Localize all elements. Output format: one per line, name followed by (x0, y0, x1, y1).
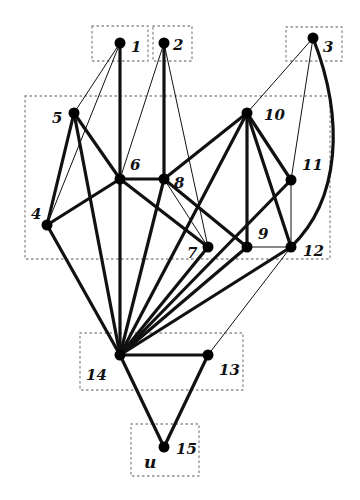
node-label-1: 1 (131, 38, 141, 56)
edge-1-5 (74, 43, 120, 113)
node-label-13: 13 (219, 361, 240, 379)
node-4 (42, 220, 53, 231)
node-label-3: 3 (323, 38, 333, 56)
node-label-9: 9 (258, 225, 269, 243)
node-label-8: 8 (174, 174, 185, 192)
edge-9-14 (120, 247, 247, 355)
edge-1-4 (47, 43, 120, 225)
node-7 (203, 242, 214, 253)
node-3 (308, 33, 319, 44)
edge-11-14 (120, 180, 291, 355)
edge-13-15 (164, 355, 208, 447)
node-label-4: 4 (31, 205, 41, 223)
edge-12-13 (208, 247, 291, 355)
node-1 (115, 38, 126, 49)
node-2 (159, 38, 170, 49)
node-15 (159, 442, 170, 453)
edge-8-7 (164, 179, 208, 247)
node-6 (115, 174, 126, 185)
node-label-15: 15 (176, 440, 197, 458)
node-9 (242, 242, 253, 253)
node-label-2: 2 (172, 36, 183, 54)
node-12 (286, 242, 297, 253)
edge-8-10 (164, 113, 247, 179)
node-label-6: 6 (130, 156, 141, 174)
node-10 (242, 108, 253, 119)
node-label-12: 12 (303, 242, 324, 260)
node-5 (69, 108, 80, 119)
edge-14-15 (120, 355, 164, 447)
graph-diagram: 123456789101112131415u (0, 0, 360, 500)
edge-5-14 (74, 113, 120, 355)
graph-svg: 123456789101112131415u (0, 0, 360, 500)
node-13 (203, 350, 214, 361)
node-8 (159, 174, 170, 185)
node-label-5: 5 (52, 109, 62, 127)
edge-12-14 (120, 247, 291, 355)
node-14 (115, 350, 126, 361)
label-u: u (144, 452, 156, 472)
node-label-11: 11 (302, 156, 323, 174)
edge-10-12 (247, 113, 291, 247)
node-label-14: 14 (86, 366, 107, 384)
edge-10-14 (120, 113, 247, 355)
node-label-10: 10 (264, 106, 285, 124)
edge-curve-3-12 (291, 38, 333, 247)
node-11 (286, 175, 297, 186)
edge-2-6 (120, 43, 164, 179)
node-label-7: 7 (187, 244, 198, 262)
